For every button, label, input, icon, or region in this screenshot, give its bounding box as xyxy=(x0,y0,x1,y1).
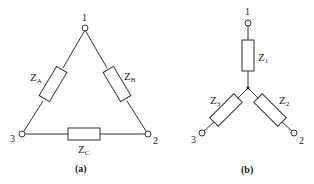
impedance-za xyxy=(39,66,67,101)
wye-network: 1 2 3 Z1 Z2 Z3 (b) xyxy=(191,6,304,176)
terminal-2 xyxy=(291,130,297,136)
node-label-1: 1 xyxy=(245,6,250,17)
terminal-3 xyxy=(199,130,205,136)
label-za: ZA xyxy=(30,71,42,85)
terminal-1 xyxy=(82,25,88,31)
wire-z2-2 xyxy=(282,122,292,131)
wire-z3-3 xyxy=(204,122,214,131)
node-label-3: 3 xyxy=(191,134,196,145)
label-z3: Z3 xyxy=(210,94,221,108)
label-zc: ZC xyxy=(78,143,90,157)
caption-a: (a) xyxy=(75,163,87,175)
node-label-2: 2 xyxy=(299,135,304,146)
caption-b: (b) xyxy=(241,164,253,176)
center-junction xyxy=(246,86,249,89)
delta-network: 1 2 3 ZA ZB ZC (a) xyxy=(10,12,158,175)
terminal-1 xyxy=(245,20,251,26)
impedance-z1 xyxy=(242,40,254,71)
node-label-3: 3 xyxy=(10,133,15,144)
wire-1-za xyxy=(63,30,85,68)
wire-zb-2 xyxy=(127,101,146,131)
label-z2: Z2 xyxy=(279,94,290,108)
wire-center-z2 xyxy=(248,88,258,98)
delta-wye-diagram: 1 2 3 ZA ZB ZC (a) 1 2 3 Z1 Z2 Z3 xyxy=(0,0,314,184)
wire-center-z3 xyxy=(238,88,248,98)
impedance-zc xyxy=(68,128,100,140)
label-zb: ZB xyxy=(124,70,136,84)
terminal-2 xyxy=(145,131,151,137)
wire-za-3 xyxy=(24,101,43,131)
terminal-3 xyxy=(19,131,25,137)
wire-1-zb xyxy=(85,30,107,68)
label-z1: Z1 xyxy=(258,51,269,65)
node-label-1: 1 xyxy=(82,12,87,23)
node-label-2: 2 xyxy=(153,135,158,146)
